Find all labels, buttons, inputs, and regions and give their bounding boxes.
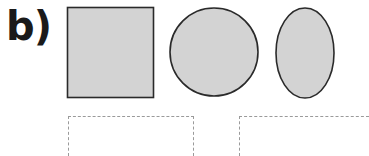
square-shape — [68, 8, 154, 98]
answer-box-1[interactable] — [68, 116, 194, 156]
answer-box-2[interactable] — [239, 116, 369, 156]
circle-shape — [170, 8, 258, 96]
ellipse-shape — [276, 8, 334, 98]
